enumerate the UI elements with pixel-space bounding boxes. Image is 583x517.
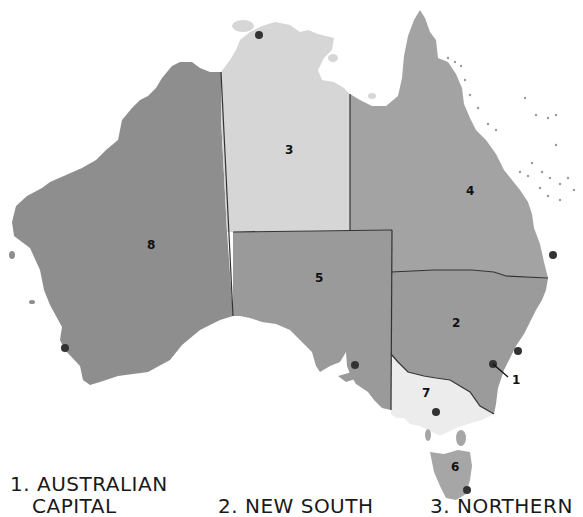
- capital-perth: [61, 344, 69, 352]
- state-western-australia[interactable]: [12, 62, 233, 385]
- label-act: 1: [512, 373, 520, 387]
- capital-hobart: [463, 486, 471, 494]
- island: [232, 20, 254, 32]
- legend-line1: AUSTRALIAN: [37, 472, 168, 496]
- state-northern-territory[interactable]: [221, 22, 350, 232]
- label-nt: 3: [285, 143, 293, 157]
- island: [29, 300, 35, 304]
- legend-line1: NORTHERN: [457, 494, 573, 517]
- island-flinders: [456, 430, 466, 446]
- island: [9, 251, 15, 259]
- capital-sydney: [514, 347, 522, 355]
- label-vic: 7: [422, 386, 430, 400]
- legend-number: 2.: [218, 494, 238, 517]
- capital-adelaide: [351, 361, 359, 369]
- legend-item-nsw: 2. NEW SOUTH: [218, 495, 374, 517]
- capital-melbourne: [432, 408, 440, 416]
- state-south-australia[interactable]: [233, 230, 392, 410]
- legend-line1: NEW SOUTH: [245, 494, 374, 517]
- label-qld: 4: [466, 184, 474, 198]
- legend-number: 3.: [430, 494, 450, 517]
- label-wa: 8: [147, 238, 155, 252]
- label-nsw: 2: [452, 316, 460, 330]
- island: [328, 54, 338, 62]
- capital-brisbane: [549, 251, 557, 259]
- legend-number: 1.: [10, 472, 30, 496]
- legend-item-nt: 3. NORTHERN: [430, 495, 573, 517]
- legend-line2: CAPITAL: [10, 495, 168, 517]
- island-king: [425, 429, 431, 441]
- label-tas: 6: [451, 460, 459, 474]
- legend-item-act: 1. AUSTRALIAN CAPITAL: [10, 473, 168, 517]
- capital-darwin: [255, 31, 263, 39]
- label-sa: 5: [315, 271, 323, 285]
- island: [368, 93, 376, 99]
